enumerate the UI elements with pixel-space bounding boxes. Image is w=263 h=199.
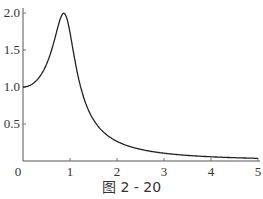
y-tick-label: 2.0 [4, 5, 20, 20]
figure-caption: 图 2 - 20 [0, 176, 263, 196]
response-curve [23, 13, 258, 158]
y-tick-label: 1.0 [4, 79, 20, 94]
chart-plot: 0123450.51.01.52.0 [0, 0, 263, 199]
y-tick-label: 0.5 [4, 116, 20, 131]
y-tick-label: 1.5 [4, 42, 20, 57]
